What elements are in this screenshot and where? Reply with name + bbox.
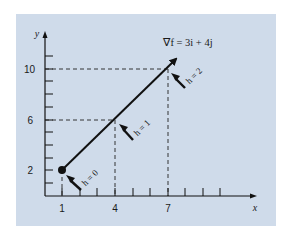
- x-axis-label: x: [252, 202, 258, 213]
- dashed-guides: [45, 69, 168, 196]
- x-tick-label-4: 4: [112, 203, 118, 214]
- y-axis-label: y: [34, 28, 40, 39]
- start-point: [58, 166, 66, 174]
- y-tick-label-2: 2: [27, 165, 33, 176]
- y-ticks: [45, 56, 53, 183]
- gradient-line: [62, 59, 176, 170]
- gradient-label: ∇f = 3i + 4j: [162, 37, 212, 48]
- h1-label: h = 1: [132, 118, 152, 138]
- y-tick-label-6: 6: [27, 115, 33, 126]
- axes: [43, 31, 258, 199]
- gradient-diagram: 2 6 10 1 4 7 y x ∇f = 3i + 4j h = 0 h = …: [0, 0, 288, 235]
- x-ticks: [62, 188, 220, 196]
- y-axis-arrow-icon: [43, 31, 48, 38]
- y-tick-label-10: 10: [24, 64, 36, 75]
- h0-label: h = 0: [80, 167, 101, 188]
- x-tick-label-1: 1: [59, 203, 65, 214]
- h2-label: h = 2: [184, 66, 204, 86]
- x-axis-arrow-icon: [250, 194, 257, 199]
- x-tick-label-7: 7: [165, 203, 171, 214]
